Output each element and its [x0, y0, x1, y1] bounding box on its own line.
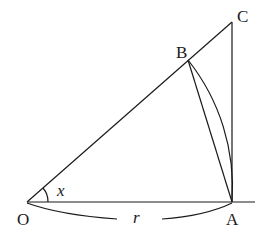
- line-OC: [27, 22, 232, 202]
- geometry-figure: O A B C x r: [0, 0, 267, 243]
- brace-left: [27, 203, 117, 219]
- label-C: C: [237, 7, 248, 26]
- label-radius-r: r: [133, 208, 140, 227]
- chord-AB: [188, 60, 232, 202]
- brace-right: [162, 203, 232, 219]
- label-O: O: [17, 210, 29, 229]
- angle-arc-x: [43, 188, 48, 202]
- label-B: B: [176, 43, 187, 62]
- label-A: A: [226, 210, 239, 229]
- label-angle-x: x: [56, 181, 65, 200]
- sector-tangent-diagram: O A B C x r: [0, 0, 267, 243]
